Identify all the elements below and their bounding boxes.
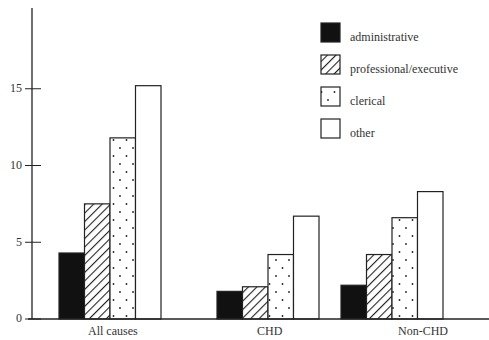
legend-swatch-administrative	[321, 23, 340, 42]
legend-label-administrative: administrative	[350, 30, 419, 45]
bar-professional-executive-chd	[243, 287, 269, 319]
category-label-all-causes: All causes	[88, 324, 138, 339]
tick-label-0: 0	[2, 311, 22, 326]
legend-label-other: other	[350, 126, 375, 141]
y-ticks	[25, 89, 41, 319]
chart-canvas	[0, 0, 489, 340]
category-label-non-chd: Non-CHD	[398, 324, 448, 339]
bar-administrative-chd	[217, 291, 243, 319]
legend-swatch-professional-executive	[321, 55, 340, 74]
bar-administrative-all-causes	[59, 253, 85, 319]
bar-other-chd	[294, 216, 320, 319]
bar-clerical-all-causes	[110, 138, 136, 319]
legend-swatches	[321, 23, 340, 138]
legend-swatch-clerical	[321, 87, 340, 106]
bar-professional-executive-non-chd	[367, 255, 393, 319]
bar-professional-executive-all-causes	[85, 204, 111, 319]
bar-other-all-causes	[136, 86, 162, 319]
tick-label-15: 15	[2, 81, 22, 96]
bar-administrative-non-chd	[341, 285, 367, 319]
bar-other-non-chd	[418, 192, 444, 319]
bars-group	[59, 86, 443, 319]
tick-label-5: 5	[2, 235, 22, 250]
tick-label-10: 10	[2, 158, 22, 173]
bar-clerical-chd	[268, 255, 294, 319]
legend-swatch-other	[321, 119, 340, 138]
legend-label-clerical: clerical	[350, 94, 385, 109]
legend-label-professional: professional/executive	[350, 62, 458, 77]
bar-clerical-non-chd	[392, 218, 418, 319]
category-label-chd: CHD	[257, 324, 282, 339]
